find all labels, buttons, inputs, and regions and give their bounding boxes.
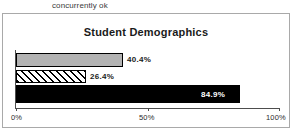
data-label-series-2: 26.4% [90,72,114,81]
bar-series-1 [16,53,123,67]
data-label-series-3: 84.9% [201,90,225,99]
x-axis-tick-0 [16,108,17,111]
x-axis-label-0: 0% [11,113,22,122]
document-header-note: concurrently ok [52,1,108,11]
chart-title: Student Demographics [3,26,289,38]
bar-series-2 [16,70,86,83]
x-axis-label-100: 100% [266,113,286,122]
x-axis-label-50: 50% [139,113,155,122]
x-axis-tick-100 [279,108,280,111]
x-axis-line [15,108,279,109]
data-label-series-1: 40.4% [127,55,151,64]
chart-plot-area: 40.4% 26.4% 84.9% [15,50,279,108]
chart-container: Student Demographics 40.4% 26.4% 84.9% 0… [2,13,290,128]
x-axis-tick-50 [148,108,149,111]
